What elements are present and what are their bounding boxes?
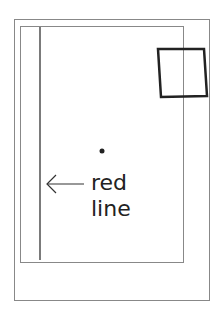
diagram-canvas: [0, 0, 221, 316]
label-line: line: [91, 197, 131, 221]
tilted-square: [158, 49, 207, 97]
outer-frame: [15, 20, 210, 301]
center-dot: [100, 149, 105, 154]
left-arrow-icon: [47, 175, 84, 193]
label-red: red: [91, 171, 127, 195]
